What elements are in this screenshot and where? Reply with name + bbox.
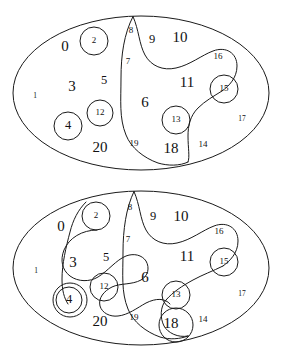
region-label-15-bottom: 15 <box>220 256 230 266</box>
region-label-0-top: 0 <box>61 38 69 54</box>
region-label-17-top: 17 <box>238 114 246 123</box>
region-label-10-top: 10 <box>173 29 188 45</box>
region-label-15-top: 15 <box>220 83 230 93</box>
region-label-8-bottom: 8 <box>128 202 133 212</box>
figure-root: 0 2 8 9 10 16 7 5 3 11 15 1 12 6 13 4 17… <box>0 0 283 357</box>
divider-curve-lower-right-top <box>188 91 222 162</box>
region-label-14-bottom: 14 <box>199 314 209 324</box>
region-label-5-bottom: 5 <box>103 250 109 264</box>
region-label-2-top: 2 <box>92 35 97 45</box>
region-label-4-top: 4 <box>65 118 72 132</box>
region-label-1-top: 1 <box>33 91 37 100</box>
region-label-3-bottom: 3 <box>69 254 77 270</box>
region-label-20-bottom: 20 <box>93 313 108 329</box>
region-label-9-bottom: 9 <box>150 209 156 223</box>
inner-blob-outline-bottom <box>62 230 170 316</box>
region-label-19-bottom: 19 <box>130 312 140 322</box>
region-label-10-bottom: 10 <box>174 208 189 224</box>
region-label-16-top: 16 <box>214 51 224 61</box>
region-label-18-top: 18 <box>164 140 179 156</box>
region-label-0-bottom: 0 <box>57 218 65 234</box>
region-label-17-bottom: 17 <box>238 289 246 298</box>
region-label-6-bottom: 6 <box>141 269 149 285</box>
region-label-7-top: 7 <box>126 56 131 66</box>
outer-ellipse-top <box>13 16 269 170</box>
region-label-11-bottom: 11 <box>180 248 194 264</box>
region-label-14-top: 14 <box>199 139 209 149</box>
region-label-12-bottom: 12 <box>100 281 109 291</box>
region-label-4-bottom: 4 <box>66 292 73 306</box>
region-label-2-bottom: 2 <box>94 210 99 220</box>
lower-partition-diagram: 0 2 8 9 10 16 7 5 3 11 15 1 6 12 13 4 17… <box>0 180 283 357</box>
region-label-16-bottom: 16 <box>215 226 225 236</box>
upper-partition-diagram: 0 2 8 9 10 16 7 5 3 11 15 1 12 6 13 4 17… <box>0 0 283 180</box>
region-label-1-bottom: 1 <box>34 266 38 275</box>
region-label-12-top: 12 <box>96 107 105 117</box>
region-label-7-bottom: 7 <box>126 234 131 244</box>
region-label-20-top: 20 <box>93 139 108 155</box>
region-label-13-bottom: 13 <box>172 289 182 299</box>
region-label-5-top: 5 <box>101 73 107 87</box>
region-label-13-top: 13 <box>172 114 182 124</box>
region-label-6-top: 6 <box>141 94 149 110</box>
region-label-3-top: 3 <box>68 78 76 94</box>
region-label-9-top: 9 <box>149 32 155 46</box>
region-label-19-top: 19 <box>130 138 140 148</box>
region-label-8-top: 8 <box>129 25 134 35</box>
region-label-18-bottom: 18 <box>164 315 179 331</box>
region-label-11-top: 11 <box>180 74 194 90</box>
